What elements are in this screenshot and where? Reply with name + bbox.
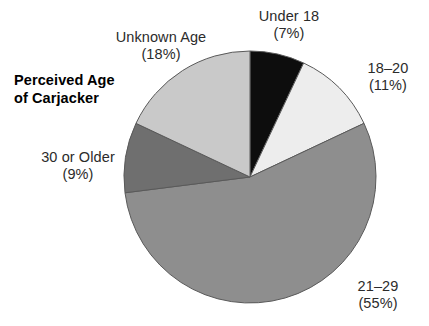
slice-label-unknown-age: Unknown Age (18%) — [102, 29, 220, 63]
slice-label-30-or-older-percent: (9%) — [18, 166, 138, 183]
slice-label-21-29-category: 21–29 — [336, 278, 420, 295]
pie-chart-figure: Perceived Age of Carjacker Under 18 (7%)… — [0, 0, 429, 326]
slice-label-18-20-percent: (11%) — [350, 77, 426, 94]
slice-label-30-or-older-category: 30 or Older — [18, 149, 138, 166]
chart-title-line-1: Perceived Age — [14, 71, 115, 89]
slice-label-18-20-category: 18–20 — [350, 60, 426, 77]
slice-label-21-29-percent: (55%) — [336, 295, 420, 312]
slice-label-under-18-category: Under 18 — [231, 8, 347, 25]
slice-label-30-or-older: 30 or Older (9%) — [18, 149, 138, 183]
slice-label-21-29: 21–29 (55%) — [336, 278, 420, 312]
slice-label-unknown-age-category: Unknown Age — [102, 29, 220, 46]
chart-title-line-2: of Carjacker — [14, 89, 115, 107]
slice-label-under-18-percent: (7%) — [231, 25, 347, 42]
slice-label-under-18: Under 18 (7%) — [231, 8, 347, 42]
slice-label-unknown-age-percent: (18%) — [102, 46, 220, 63]
slice-label-18-20: 18–20 (11%) — [350, 60, 426, 94]
pie-slices-group — [124, 51, 376, 303]
chart-title: Perceived Age of Carjacker — [14, 71, 115, 107]
